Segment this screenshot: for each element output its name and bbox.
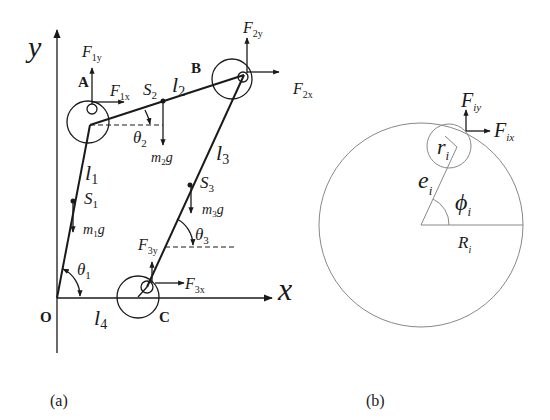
phi-arc [433, 199, 449, 225]
s2-label: S2 [143, 80, 157, 101]
point-b-label: B [191, 60, 201, 76]
joint-a-pin [87, 104, 97, 114]
s1-label: S1 [84, 189, 98, 210]
caption-b: (b) [366, 392, 385, 410]
l3-label: l3 [216, 140, 229, 167]
theta2-arc [145, 110, 150, 124]
figure-a: y x A B C O F1y F1x S2 l2 θ2 [25, 19, 313, 410]
R-label: Ri [457, 233, 471, 255]
point-c-label: C [159, 309, 170, 325]
force-f2y-label: F2y [242, 19, 263, 39]
point-o-label: O [40, 309, 52, 325]
force-f1y-label: F1y [81, 43, 102, 63]
force-f3y-label: F3y [137, 236, 158, 256]
force-fiy-label: Fiy [460, 89, 481, 113]
m1g-label: m1g [83, 222, 105, 239]
force-f2x-label: F2x [292, 80, 313, 100]
e-label: ei [418, 167, 433, 198]
figure-b: Fiy Fix ri ei ϕi Ri (b) [319, 89, 523, 410]
l2-label: l2 [172, 72, 185, 99]
link-l3 [147, 75, 244, 287]
theta1-label: θ1 [77, 260, 91, 281]
s3-point [188, 183, 193, 188]
force-f1x-label: F1x [109, 82, 130, 102]
m3g-label: m3g [202, 202, 224, 219]
point-a-label: A [78, 74, 89, 90]
x-axis-label: x [277, 271, 292, 307]
m2g-label: m2g [151, 150, 173, 167]
force-f3x-label: F3x [184, 275, 205, 295]
phi-label: ϕi [455, 189, 471, 219]
force-fix-label: Fix [493, 119, 514, 143]
caption-a: (a) [50, 392, 68, 410]
theta3-arc [177, 219, 193, 245]
l4-label: l4 [94, 305, 107, 332]
theta2-label: θ2 [133, 128, 147, 149]
theta3-label: θ3 [195, 225, 209, 246]
kinematic-diagram: y x A B C O F1y F1x S2 l2 θ2 [0, 0, 550, 420]
l1-label: l1 [85, 160, 98, 187]
s3-label: S3 [200, 173, 215, 194]
y-axis-label: y [25, 30, 42, 63]
